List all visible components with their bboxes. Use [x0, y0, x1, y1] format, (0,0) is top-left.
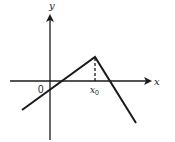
x-axis-label: x [154, 76, 160, 87]
origin-label: 0 [38, 84, 44, 95]
graph-figure: y x 0 x0 [0, 0, 175, 142]
x0-label: x0 [90, 85, 99, 96]
x0-label-subscript: 0 [95, 89, 99, 96]
y-axis-label: y [48, 0, 55, 11]
